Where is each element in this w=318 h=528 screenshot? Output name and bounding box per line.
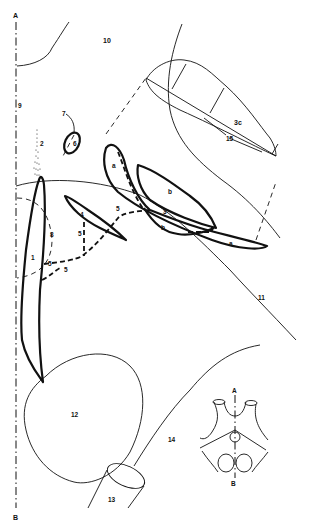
svg-text:6: 6 (73, 140, 77, 147)
path-5-branch (42, 268, 60, 280)
projection-line-lower (256, 182, 276, 240)
svg-text:4: 4 (80, 211, 84, 218)
svg-text:7: 7 (62, 110, 66, 117)
svg-text:5: 5 (64, 266, 68, 273)
inset-orientation-diagram: A B (200, 387, 268, 487)
path-5 (44, 210, 150, 264)
label-14: 14 (168, 436, 176, 443)
svg-text:B: B (231, 480, 236, 487)
structure-3c-detail: 3c 15 (146, 60, 278, 156)
svg-text:12: 12 (71, 411, 79, 418)
label-9: 9 (18, 102, 22, 109)
structure-6: 7 6 (61, 110, 83, 158)
svg-text:5: 5 (116, 205, 120, 212)
structure-13: 13 (88, 458, 148, 508)
svg-text:1: 1 (31, 254, 35, 261)
svg-text:5: 5 (78, 230, 82, 237)
svg-text:13: 13 (108, 496, 116, 503)
svg-text:15: 15 (226, 135, 234, 142)
svg-text:3c: 3c (234, 119, 242, 126)
label-8: 8 (50, 231, 54, 238)
label-2: 2 (40, 140, 44, 147)
structure-8-dashed (17, 198, 52, 278)
svg-text:a: a (229, 240, 233, 247)
region-14-boundary (134, 345, 260, 466)
svg-text:b: b (168, 188, 172, 195)
midline-axis-a-b: A B (13, 12, 18, 521)
label-11: 11 (258, 294, 265, 301)
svg-text:5: 5 (48, 260, 52, 267)
label-10: 10 (103, 37, 111, 44)
region-10-boundary (17, 22, 69, 66)
anatomical-diagram: A B 3c 15 2 9 10 7 6 1 (0, 0, 318, 528)
svg-text:b: b (161, 224, 165, 231)
svg-text:A: A (232, 387, 237, 394)
structure-1: 1 (21, 177, 45, 382)
svg-text:a: a (112, 162, 116, 169)
axis-label-a: A (13, 12, 18, 19)
structure-2-stipple (33, 129, 40, 175)
svg-text:3: 3 (163, 208, 167, 215)
projection-line-upper (106, 78, 146, 134)
axis-label-b: B (13, 514, 18, 521)
